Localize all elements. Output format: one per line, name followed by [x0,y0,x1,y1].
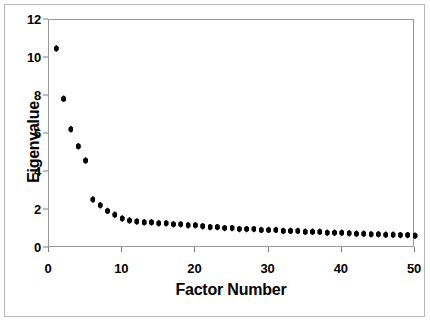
data-point [90,196,95,203]
data-point [288,227,293,234]
data-point [383,231,388,238]
data-point [369,231,374,238]
x-tick-mark [268,247,269,252]
data-point [112,211,117,218]
x-tick-mark [414,247,415,252]
x-tick-label: 40 [334,261,348,276]
data-point [149,219,154,226]
data-point [310,228,315,235]
x-tick-label: 50 [407,261,421,276]
data-point [317,228,322,235]
plot-area [48,19,414,247]
data-point [266,226,271,233]
x-tick-mark [121,247,122,252]
x-tick-label: 10 [114,261,128,276]
data-point [398,232,403,239]
data-point [244,226,249,233]
x-tick-label: 0 [44,261,51,276]
data-point [54,45,59,52]
data-points-layer [49,20,413,246]
data-point [391,231,396,238]
data-point [295,227,300,234]
x-tick-label: 20 [187,261,201,276]
data-point [76,143,81,150]
data-point [339,229,344,236]
data-point [222,225,227,232]
data-point [208,224,213,231]
x-tick-label: 30 [261,261,275,276]
x-axis-label: Factor Number [48,281,414,299]
data-point [61,95,66,102]
data-point [215,224,220,231]
data-point [413,232,418,239]
y-axis-label: Eigenvalue [25,52,43,232]
data-point [120,215,125,222]
data-point [237,226,242,233]
data-point [186,222,191,229]
data-point [105,207,110,214]
data-point [193,222,198,229]
scree-plot-figure: 024681012 Eigenvalue 01020304050 Factor … [0,0,430,322]
x-tick-mark [194,247,195,252]
data-point [200,223,205,230]
x-tick-mark [48,247,49,252]
data-point [164,220,169,227]
data-point [273,226,278,233]
data-point [230,225,235,232]
x-tick-mark [341,247,342,252]
data-point [361,230,366,237]
data-point [259,226,264,233]
data-point [98,202,103,209]
data-point [127,217,132,224]
data-point [354,230,359,237]
data-point [251,226,256,233]
data-point [134,218,139,225]
data-point [142,219,147,226]
data-point [325,229,330,236]
data-point [68,126,73,133]
data-point [156,220,161,227]
data-point [303,228,308,235]
data-point [171,221,176,228]
data-point [332,229,337,236]
data-point [281,227,286,234]
y-tick-label: 12 [27,12,41,27]
data-point [376,231,381,238]
data-point [83,157,88,164]
data-point [347,230,352,237]
data-point [178,221,183,228]
data-point [405,232,410,239]
